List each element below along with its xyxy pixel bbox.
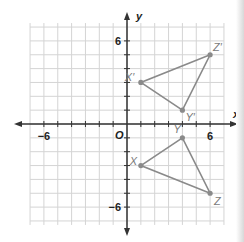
vertex-label: Y: [173, 123, 181, 135]
vertex-label: X′: [124, 71, 135, 83]
y-axis-arrow-down-icon: [124, 228, 130, 236]
vertex-point: [180, 108, 185, 113]
vertex-point: [208, 191, 213, 196]
y-tick-label: 6: [115, 35, 121, 47]
x-tick-label: 6: [207, 130, 213, 142]
y-axis-label: y: [135, 10, 143, 22]
vertex-point: [138, 80, 143, 85]
vertex-point: [138, 163, 143, 168]
vertex-label: Z′: [212, 41, 223, 53]
vertex-point: [208, 52, 213, 57]
origin-label: O: [115, 129, 124, 141]
page-edge-shadow: [236, 0, 244, 242]
coordinate-grid: xyO−666−6XYZX′Y′Z′: [0, 0, 244, 242]
vertex-label: Y′: [185, 111, 195, 123]
vertex-label: X: [129, 155, 138, 167]
x-tick-label: −6: [38, 130, 51, 142]
x-axis-arrow-left-icon: [14, 121, 22, 127]
vertex-label: Z: [213, 195, 222, 207]
coordinate-plane-figure: xyO−666−6XYZX′Y′Z′: [0, 0, 244, 242]
y-tick-label: −6: [108, 201, 121, 213]
y-axis-arrow-up-icon: [124, 12, 130, 20]
vertex-point: [180, 135, 185, 140]
